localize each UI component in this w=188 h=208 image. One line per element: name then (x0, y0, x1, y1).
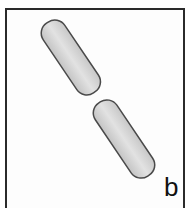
upper-cell (37, 15, 106, 99)
lower-cell (89, 95, 160, 182)
panel-label: b (164, 174, 178, 200)
bacterium-cells-illustration (0, 0, 188, 208)
